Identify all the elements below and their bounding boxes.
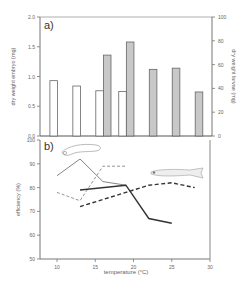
line-series	[57, 159, 126, 185]
panel-label-a: a)	[44, 19, 54, 31]
y-axis-label-right: dry weight larvae (mg)	[231, 49, 237, 104]
line-series	[80, 185, 172, 223]
y-tick-label-right: 80	[218, 38, 224, 44]
panel-a: 0.00.51.01.52.0020406080100dry weight em…	[10, 14, 237, 139]
bar-larvae	[195, 92, 203, 136]
y-axis-label-left: dry weight embryo (mg)	[10, 47, 16, 105]
y-tick-label: 90	[29, 161, 35, 167]
chart-figure: 0.00.51.01.52.0020406080100dry weight em…	[0, 0, 247, 290]
y-tick-label-right: 100	[218, 14, 227, 20]
y-tick-label-left: 1.0	[28, 74, 35, 80]
x-tick-label: 15	[92, 264, 98, 270]
y-tick-label-right: 40	[218, 85, 224, 91]
x-tick-label: 25	[169, 264, 175, 270]
bar-embryo	[119, 91, 127, 136]
bar-larvae	[149, 69, 157, 136]
bar-embryo	[50, 81, 58, 136]
bar-larvae	[126, 42, 134, 136]
y-axis-label: efficiency (%)	[15, 183, 21, 216]
y-tick-label: 80	[29, 185, 35, 191]
embryo-illustration-icon	[62, 144, 101, 155]
y-tick-label: 70	[29, 208, 35, 214]
y-tick-label: 50	[29, 256, 35, 262]
y-tick-label: 100	[27, 137, 36, 143]
bar-larvae	[103, 55, 111, 136]
bar-larvae	[172, 68, 180, 136]
x-tick-label: 30	[207, 264, 213, 270]
y-tick-label-right: 60	[218, 62, 224, 68]
y-tick-label-left: 1.5	[28, 44, 35, 50]
x-axis-label: temperature (°C)	[104, 269, 149, 275]
bar-embryo	[73, 86, 81, 136]
x-tick-label: 10	[54, 264, 60, 270]
bar-embryo	[96, 91, 104, 136]
y-tick-label: 60	[29, 232, 35, 238]
y-tick-label-right: 0	[218, 133, 221, 139]
larva-illustration-icon	[151, 168, 203, 178]
y-tick-label-left: 0.5	[28, 103, 35, 109]
y-tick-label-right: 20	[218, 109, 224, 115]
y-tick-label-left: 2.0	[28, 14, 35, 20]
panel-b: 50607080901001015202530temperature (°C)e…	[15, 137, 213, 275]
panel-label-b: b)	[44, 140, 54, 152]
